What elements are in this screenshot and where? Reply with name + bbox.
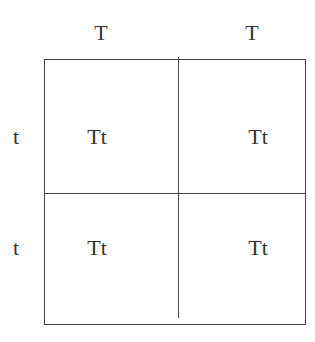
- grid-vertical-divider: [178, 57, 179, 318]
- grid-right-border: [305, 59, 306, 325]
- grid-left-border: [44, 59, 45, 325]
- grid-top-border: [44, 59, 306, 60]
- cell-r2-c1: Tt: [87, 237, 107, 259]
- cell-r1-c1: Tt: [87, 126, 107, 148]
- row-header-2: t: [13, 237, 19, 259]
- row-header-1: t: [13, 126, 19, 148]
- grid-bottom-border: [44, 324, 306, 325]
- cell-r2-c2: Tt: [248, 237, 268, 259]
- cell-r1-c2: Tt: [248, 126, 268, 148]
- column-header-2: T: [245, 22, 258, 44]
- grid-horizontal-divider: [45, 193, 305, 194]
- column-header-1: T: [94, 22, 107, 44]
